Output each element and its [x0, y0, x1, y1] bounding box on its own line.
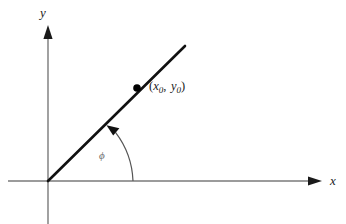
- coordinate-separator: ,: [163, 79, 171, 93]
- y-axis-arrowhead-icon: [43, 25, 52, 39]
- angle-arc: [116, 132, 134, 181]
- ray-line: [48, 46, 185, 181]
- x-axis-arrowhead-icon: [308, 176, 322, 185]
- point-coordinate-label: (x0, y0): [149, 80, 185, 95]
- diagram-svg: [0, 0, 346, 224]
- paren-close: ): [181, 79, 185, 93]
- angle-phi-label: ϕ: [99, 150, 105, 161]
- figure-canvas: y x (x0, y0) ϕ: [0, 0, 346, 224]
- x-axis-label: x: [330, 174, 336, 187]
- y-axis-label: y: [40, 6, 46, 19]
- point-marker: [133, 84, 141, 92]
